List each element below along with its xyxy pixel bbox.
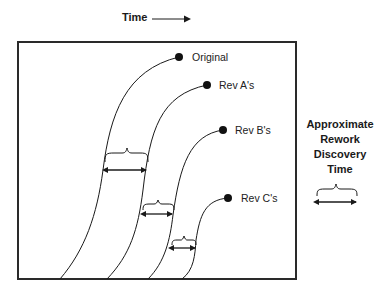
dot-rev-c	[224, 194, 232, 202]
label-original: Original	[192, 51, 228, 63]
legend-line-2: Rework	[300, 132, 380, 147]
time-axis-label: Time	[122, 11, 147, 23]
label-rev-b: Rev B's	[235, 124, 271, 136]
legend-brace	[317, 184, 357, 196]
label-rev-a: Rev A's	[219, 79, 254, 91]
legend-line-4: Time	[300, 162, 380, 177]
interval-brace-1	[105, 148, 148, 162]
dot-original	[175, 53, 183, 61]
chart-frame	[18, 42, 296, 279]
label-rev-c: Rev C's	[241, 192, 277, 204]
legend-line-1: Approximate	[300, 117, 380, 132]
curve-rev-b	[148, 130, 223, 279]
dot-rev-a	[203, 81, 211, 89]
interval-brace-2	[143, 200, 174, 210]
interval-brace-3	[172, 236, 196, 245]
curve-rev-a	[107, 85, 207, 279]
legend-title: Approximate Rework Discovery Time	[300, 117, 380, 177]
dot-rev-b	[219, 126, 227, 134]
time-arrow-icon	[152, 16, 191, 23]
legend-line-3: Discovery	[300, 147, 380, 162]
curve-original	[60, 57, 179, 279]
curve-rev-c	[182, 198, 228, 279]
